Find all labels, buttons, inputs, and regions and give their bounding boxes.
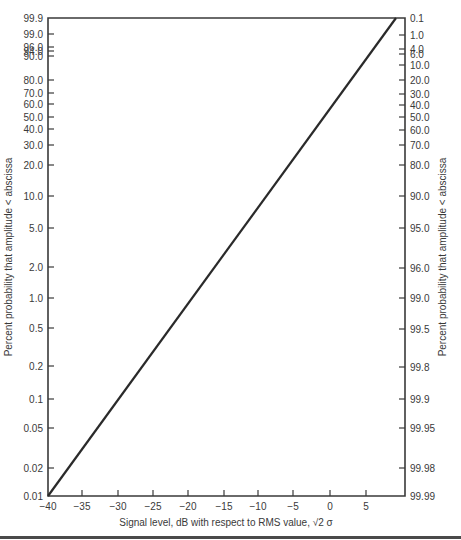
y-right-tick-label: 50.0 [410, 112, 430, 123]
y-left-tick-label: 0.02 [24, 463, 44, 474]
y-right-tick-label: 90.0 [410, 191, 430, 202]
y-right-tick-label: 1.0 [410, 30, 424, 41]
probability-line [48, 18, 396, 496]
y-right-tick-label: 30.0 [410, 89, 430, 100]
x-tick-label: −5 [287, 501, 299, 512]
y-left-tick-label: 5.0 [29, 223, 43, 234]
bottom-rule [0, 536, 461, 539]
y-axis-left-ticks: 99.999.096.094.090.080.070.060.050.040.0… [24, 13, 54, 502]
y-left-tick-label: 99.9 [24, 13, 44, 24]
x-tick-label: −15 [216, 501, 233, 512]
y-left-tick-label: 0.1 [29, 394, 43, 405]
x-tick-label: −20 [180, 501, 197, 512]
y-left-tick-label: 80.0 [24, 75, 44, 86]
x-tick-label: −35 [74, 501, 91, 512]
y-right-tick-label: 95.0 [410, 223, 430, 234]
y-right-tick-label: 99.9 [410, 394, 430, 405]
x-tick-label: −10 [250, 501, 267, 512]
y-left-tick-label: 40.0 [24, 124, 44, 135]
x-tick-label: −25 [145, 501, 162, 512]
y-right-tick-label: 70.0 [410, 140, 430, 151]
x-axis-ticks: −40−35−30−25−20−15−10−505 [40, 490, 370, 512]
y-right-tick-label: 99.5 [410, 324, 430, 335]
y-left-tick-label: 0.5 [29, 323, 43, 334]
y-right-tick-label: 96.0 [410, 263, 430, 274]
y-left-tick-label: 0.2 [29, 361, 43, 372]
y-right-tick-label: 80.0 [410, 160, 430, 171]
y-left-tick-label: 10.0 [24, 191, 44, 202]
probability-chart: −40−35−30−25−20−15−10−505 99.999.096.094… [0, 0, 461, 540]
y-right-tick-label: 0.1 [410, 13, 424, 24]
y-left-tick-label: 2.0 [29, 262, 43, 273]
y-left-tick-label: 60.0 [24, 99, 44, 110]
y-right-tick-label: 60.0 [410, 125, 430, 136]
y-left-tick-label: 1.0 [29, 293, 43, 304]
y-right-tick-label: 99.0 [410, 293, 430, 304]
y-left-tick-label: 70.0 [24, 88, 44, 99]
y-axis-left-title: Percent probability that amplitude < abs… [3, 157, 14, 356]
y-right-tick-label: 10.0 [410, 60, 430, 71]
y-left-tick-label: 90.0 [24, 51, 44, 62]
x-tick-label: −40 [40, 501, 57, 512]
y-left-tick-label: 50.0 [24, 112, 44, 123]
y-right-tick-label: 99.98 [410, 463, 435, 474]
y-axis-right-title: Percent probability that amplitude < abs… [437, 157, 448, 356]
y-right-tick-label: 99.95 [410, 423, 435, 434]
y-right-tick-label: 99.8 [410, 362, 430, 373]
y-left-tick-label: 0.05 [24, 423, 44, 434]
x-tick-label: −30 [110, 501, 127, 512]
y-right-tick-label: 20.0 [410, 75, 430, 86]
y-left-tick-label: 0.01 [24, 491, 44, 502]
y-right-tick-label: 99.99 [410, 491, 435, 502]
x-tick-label: 0 [327, 501, 333, 512]
y-left-tick-label: 30.0 [24, 140, 44, 151]
x-tick-label: 5 [363, 501, 369, 512]
y-right-tick-label: 40.0 [410, 100, 430, 111]
y-left-tick-label: 99.0 [24, 29, 44, 40]
y-left-tick-label: 20.0 [24, 160, 44, 171]
data-line [48, 18, 396, 496]
y-right-tick-label: 6.0 [410, 49, 424, 60]
x-axis-title: Signal level, dB with respect to RMS val… [119, 517, 333, 528]
